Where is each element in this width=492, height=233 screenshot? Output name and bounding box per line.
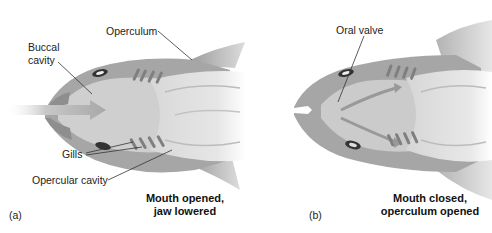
opercular-region xyxy=(406,70,492,162)
caption-b-line1: Mouth closed, xyxy=(374,192,486,205)
opercular-region xyxy=(150,71,246,161)
label-gills: Gills xyxy=(62,148,82,160)
caption-a-line2: jaw lowered xyxy=(130,205,240,218)
panel-b-mouth-closed: Oral valve Mouth closed, operculum opene… xyxy=(246,0,492,233)
panel-a-mouth-opened: Operculum Buccal cavity Gills Opercular … xyxy=(0,0,246,233)
label-buccal-line2: cavity xyxy=(28,54,55,66)
label-buccal-line1: Buccal xyxy=(28,41,60,53)
panel-tag-a: (a) xyxy=(9,209,22,221)
label-oral-valve: Oral valve xyxy=(336,24,383,36)
caption-a-line1: Mouth opened, xyxy=(130,192,240,205)
caption-b-line2: operculum opened xyxy=(374,205,486,218)
label-operculum: Operculum xyxy=(106,25,157,37)
panel-tag-b: (b) xyxy=(309,209,322,221)
label-opercular-cavity: Opercular cavity xyxy=(32,174,108,186)
